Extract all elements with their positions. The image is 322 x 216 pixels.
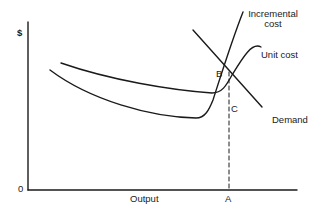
demand-line [193, 30, 262, 107]
incremental-cost-curve [50, 12, 243, 118]
a-marker-label: A [225, 194, 231, 204]
cost-chart [0, 0, 322, 216]
y-axis-label: $ [17, 28, 22, 38]
c-point-label: C [231, 104, 238, 114]
unit-cost-curve [61, 46, 261, 93]
demand-label: Demand [272, 115, 308, 125]
origin-label: 0 [18, 184, 23, 194]
x-axis-label: Output [130, 194, 159, 204]
unit-cost-label: Unit cost [261, 50, 298, 60]
incremental-cost-label-line2: cost [246, 19, 300, 29]
b-point-label: B [216, 69, 222, 79]
incremental-cost-label: Incremental cost [246, 9, 300, 29]
